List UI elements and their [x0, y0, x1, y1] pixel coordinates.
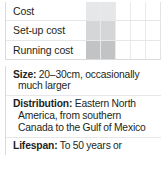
fact-text: Lifespan: To 50 years or: [13, 140, 157, 152]
rating-cell-empty: [131, 2, 146, 20]
fact-entry-lifespan: Lifespan: To 50 years or: [6, 138, 161, 155]
cost-row-label: Set-up cost: [13, 24, 65, 36]
cost-row-label: Cost: [13, 5, 34, 17]
rating-cell-filled: [86, 21, 101, 39]
rating-cell-empty: [116, 21, 131, 39]
rating-cell-filled: [86, 2, 101, 20]
fact-entry-distribution: Distribution: Eastern North America, fro…: [6, 96, 161, 138]
rating-cell-empty: [146, 41, 161, 59]
species-facts-panel: Size: 20–30cm, occasionally much larger …: [5, 66, 161, 155]
fact-text: Size: 20–30cm, occasionally much larger: [13, 69, 157, 92]
cost-row-label: Running cost: [13, 44, 73, 56]
rating-cell-filled: [101, 21, 116, 39]
infobox-page: Cost Set-up cost Running cost: [0, 0, 166, 176]
rating-cell-empty: [116, 41, 131, 59]
cost-rating-scale: [86, 21, 161, 39]
cost-row: Set-up cost: [6, 21, 161, 40]
fact-value: 20–30cm, occasionally much larger: [18, 69, 139, 92]
cost-rating-scale: [86, 2, 161, 20]
fact-term: Distribution:: [13, 98, 72, 109]
rating-cell-filled: [86, 41, 101, 59]
rating-cell-empty: [146, 21, 161, 39]
cost-rating-panel: Cost Set-up cost Running cost: [5, 2, 161, 60]
rating-cell-empty: [131, 21, 146, 39]
cost-row: Running cost: [6, 41, 161, 60]
fact-text: Distribution: Eastern North America, fro…: [13, 98, 157, 133]
cost-row: Cost: [6, 2, 161, 21]
cost-rating-scale: [86, 41, 161, 59]
fact-value: To 50 years or: [57, 140, 121, 151]
rating-cell-filled: [101, 41, 116, 59]
rating-cell-empty: [116, 2, 131, 20]
rating-cell-empty: [146, 2, 161, 20]
rating-cell-filled: [101, 2, 116, 20]
fact-term: Size:: [13, 69, 36, 80]
fact-entry-size: Size: 20–30cm, occasionally much larger: [6, 66, 161, 96]
rating-cell-empty: [131, 41, 146, 59]
fact-term: Lifespan:: [13, 140, 57, 151]
